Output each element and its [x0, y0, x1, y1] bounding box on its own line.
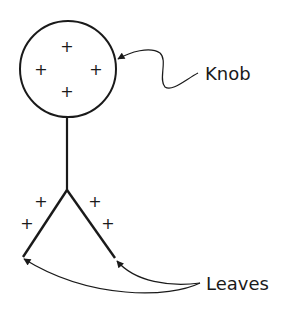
- knob-plus-left: +: [34, 60, 47, 79]
- leaf-left-plus-upper: +: [34, 192, 47, 211]
- knob: + + + +: [20, 21, 116, 117]
- leaves-callout-arrow-left: [24, 259, 200, 293]
- leaf-right-plus-upper: +: [88, 192, 101, 211]
- leaves-label: Leaves: [206, 273, 269, 294]
- leaves-callout-arrow-right: [117, 261, 200, 284]
- leaf-left-plus-lower: +: [20, 214, 33, 233]
- knob-plus-bottom: +: [60, 82, 73, 101]
- leaves: + + + +: [20, 190, 115, 258]
- knob-callout-arrow: [118, 50, 198, 88]
- knob-label: Knob: [205, 63, 251, 84]
- knob-plus-right: +: [89, 60, 102, 79]
- electroscope-diagram: + + + + + + + + Knob Leaves: [0, 0, 284, 312]
- leaf-right-plus-lower: +: [101, 214, 114, 233]
- knob-plus-top: +: [60, 37, 73, 56]
